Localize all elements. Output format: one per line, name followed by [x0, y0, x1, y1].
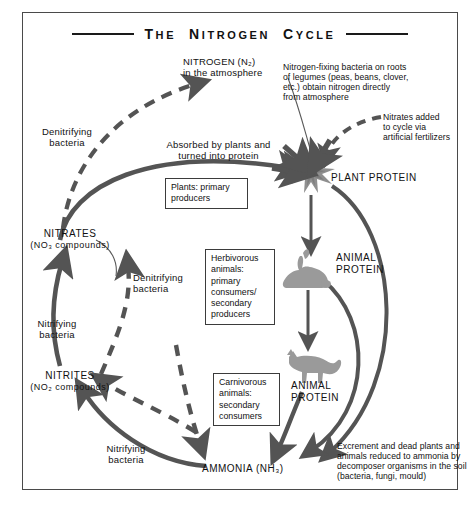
- node-nitrates: NITRATES (NO₃ compounds): [26, 228, 114, 250]
- nitrogen-gas-line1: NITROGEN (N₂): [183, 56, 262, 67]
- edge-plantprotein-to-ammonia: [330, 186, 387, 452]
- plants-box-line1: Plants: primary: [171, 182, 242, 193]
- fox-silhouette-icon: [287, 349, 341, 383]
- node-animal-protein-herbivore: ANIMAL PROTEIN: [336, 252, 384, 276]
- decomposers-line4: (bacteria, fungi, mould): [337, 471, 467, 481]
- label-absorbed-by-plants: Absorbed by plants and turned into prote…: [156, 139, 281, 161]
- label-nitrifying-upper: Nitrifying bacteria: [22, 318, 92, 340]
- denitrifying-mid-line2: bacteria: [133, 283, 183, 294]
- nitrogen-fixing-line3: etc.) obtain nitrogen directly: [283, 82, 458, 92]
- herbivores-box-line1: Herbivorous: [211, 253, 269, 264]
- decomposers-line2: animals reduced to ammonia by: [337, 451, 467, 461]
- herbivores-box-line4: consumers/: [211, 287, 269, 298]
- herbivores-box-line6: producers: [211, 309, 269, 320]
- arrow-into-plantprotein-topleft: [284, 146, 302, 162]
- title-text: THE NITROGEN CYCLE: [144, 26, 335, 42]
- arrow-into-plantprotein-left: [272, 168, 297, 172]
- edge-ammonia-to-nitrites-dashed: [104, 382, 196, 432]
- note-fertilizers: Nitrates added to cycle via artificial f…: [383, 112, 469, 142]
- title-rule-right: [346, 33, 408, 35]
- label-denitrifying-upper: Denitrifying bacteria: [30, 126, 104, 148]
- absorbed-line1: Absorbed by plants and: [156, 139, 281, 150]
- fertilizers-line1: Nitrates added: [383, 112, 469, 122]
- carnivores-box-line4: consumers: [219, 411, 274, 422]
- node-animal-protein-carnivore: ANIMAL PROTEIN: [291, 380, 339, 404]
- fertilizers-line2: to cycle via: [383, 122, 469, 132]
- denitrifying-mid-line1: Denitrifying: [133, 272, 183, 283]
- decomposers-line3: decomposer organisms in the soil: [337, 461, 467, 471]
- nitrogen-fixing-line2: of legumes (peas, beans, clover,: [283, 72, 458, 82]
- nitrogen-cycle-diagram: THE NITROGEN CYCLE NITROGEN (N₂) in the …: [0, 0, 472, 513]
- node-nitrogen-gas: NITROGEN (N₂) in the atmosphere: [183, 56, 262, 78]
- edge-nitrites-to-nitrates: [53, 262, 62, 366]
- nitrogen-gas-line2: in the atmosphere: [183, 67, 262, 78]
- nitrites-line2: (NO₂ compounds): [26, 382, 114, 393]
- note-nitrogen-fixing: Nitrogen-fixing bacteria on roots of leg…: [283, 62, 458, 103]
- decomposers-line1: Excrement and dead plants and: [337, 441, 467, 451]
- nitrifying-upper-line1: Nitrifying: [22, 318, 92, 329]
- page-title: THE NITROGEN CYCLE: [22, 22, 458, 46]
- plants-box-line2: producers: [171, 193, 242, 204]
- box-plants-primary-producers: Plants: primary producers: [165, 178, 248, 209]
- nitrogen-fixing-line4: from atmosphere: [283, 92, 458, 102]
- title-rule-left: [72, 33, 134, 35]
- box-carnivorous-animals: Carnivorous animals: secondary consumers: [213, 373, 280, 426]
- node-ammonia: AMMONIA (NH₃): [202, 463, 284, 475]
- animal-protein-carnivore-line1: ANIMAL: [291, 380, 339, 392]
- node-plant-protein: PLANT PROTEIN: [331, 172, 417, 184]
- node-nitrites: NITRITES (NO₂ compounds): [26, 370, 114, 392]
- herbivores-box-line5: secondary: [211, 298, 269, 309]
- herbivores-box-line3: primary: [211, 276, 269, 287]
- carnivores-box-line1: Carnivorous: [219, 377, 274, 388]
- nitrites-line1: NITRITES: [26, 370, 114, 382]
- herbivores-box-line2: animals:: [211, 264, 269, 275]
- nitrates-line2: (NO₃ compounds): [26, 240, 114, 251]
- edge-fertilizer-to-plantprotein-dashed: [327, 117, 381, 155]
- animal-protein-herbivore-line1: ANIMAL: [336, 252, 384, 264]
- rabbit-silhouette-icon: [283, 249, 331, 288]
- nitrifying-lower-line1: Nitrifying: [91, 443, 161, 454]
- nitrifying-upper-line2: bacteria: [22, 329, 92, 340]
- nitrifying-lower-line2: bacteria: [91, 454, 161, 465]
- carnivores-box-line2: animals:: [219, 388, 274, 399]
- animal-protein-carnivore-line2: PROTEIN: [291, 392, 339, 404]
- denitrifying-upper-line2: bacteria: [30, 137, 104, 148]
- edge-denitrifying-mid-dashed: [101, 266, 129, 374]
- absorbed-line2: turned into protein: [156, 150, 281, 161]
- box-herbivorous-animals: Herbivorous animals: primary consumers/ …: [205, 249, 275, 325]
- label-denitrifying-mid: Denitrifying bacteria: [133, 272, 183, 294]
- nitrogen-fixing-line1: Nitrogen-fixing bacteria on roots: [283, 62, 458, 72]
- note-decomposers: Excrement and dead plants and animals re…: [337, 441, 467, 482]
- animal-protein-herbivore-line2: PROTEIN: [336, 264, 384, 276]
- carnivores-box-line3: secondary: [219, 400, 274, 411]
- label-nitrifying-lower: Nitrifying bacteria: [91, 443, 161, 465]
- nitrates-line1: NITRATES: [26, 228, 114, 240]
- fertilizers-line3: artificial fertilizers: [383, 132, 469, 142]
- denitrifying-upper-line1: Denitrifying: [30, 126, 104, 137]
